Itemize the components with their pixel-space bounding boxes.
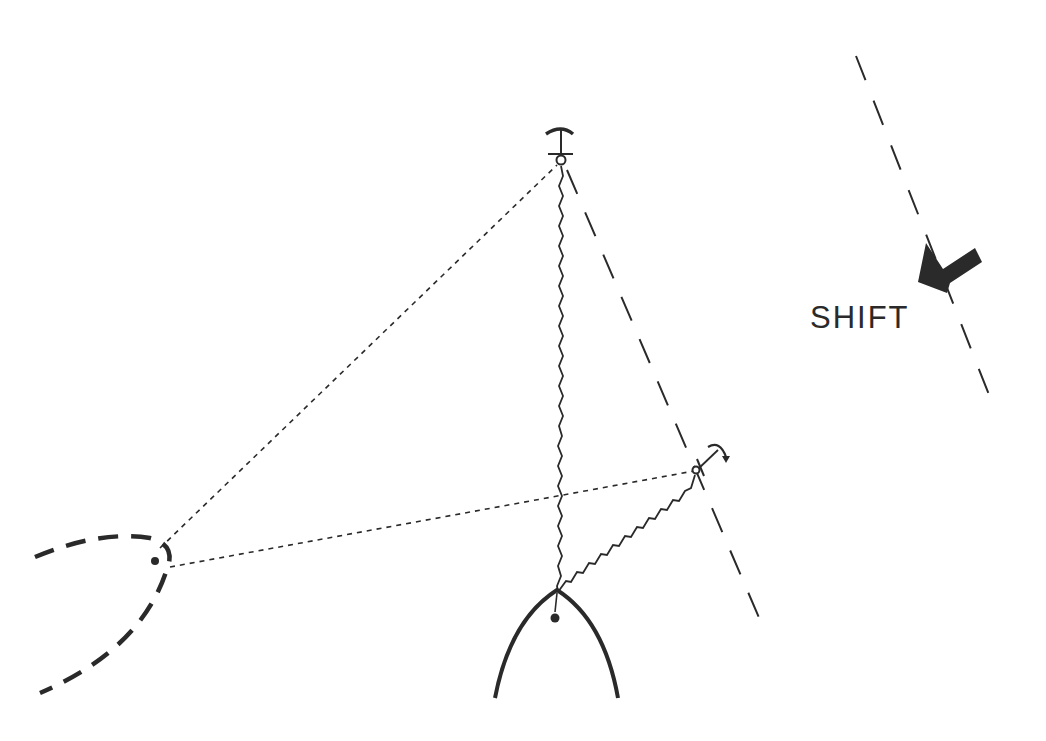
shift-arrow-icon	[918, 243, 982, 293]
main-anchor-rode	[557, 166, 563, 592]
boat-hull	[495, 590, 618, 698]
second-anchor-icon	[693, 445, 731, 476]
swing-line-to-main-anchor	[160, 165, 557, 548]
swing-line-to-second-anchor	[170, 471, 694, 567]
old-wind-dashed-line	[567, 170, 760, 620]
bow-chock	[555, 593, 557, 612]
main-anchor-icon	[546, 129, 573, 165]
diagram-svg	[0, 0, 1046, 741]
new-wind-dashed-line	[856, 56, 993, 405]
swung-boat-pivot-point	[151, 557, 159, 565]
shift-label: SHIFT	[810, 300, 910, 336]
swung-boat-hull	[35, 536, 170, 693]
boat-pivot-point	[551, 614, 560, 623]
second-anchor-rode	[558, 475, 695, 592]
diagram-canvas: SHIFT	[0, 0, 1046, 741]
